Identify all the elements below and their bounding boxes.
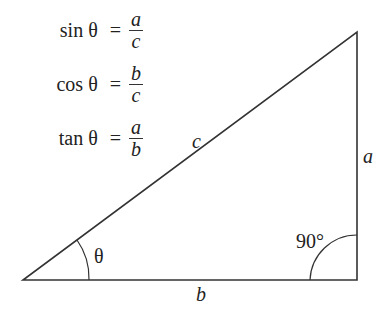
hypotenuse-label: c — [192, 130, 201, 153]
theta-arc — [77, 240, 89, 280]
opposite-label: a — [363, 145, 373, 168]
right-triangle — [0, 0, 390, 320]
theta-label: θ — [94, 245, 104, 268]
right-angle-label: 90° — [296, 230, 324, 253]
trig-diagram: sin θ = a c cos θ = b c tan θ = a b c a … — [0, 0, 390, 320]
adjacent-label: b — [196, 283, 206, 306]
